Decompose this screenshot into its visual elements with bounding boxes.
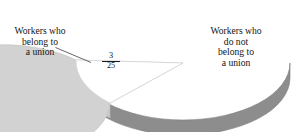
pie-chart-figure: Workers who belong to a union Workers wh…	[0, 0, 299, 132]
fraction-denominator: 25	[100, 62, 122, 70]
label-workers-union: Workers who belong to a union	[4, 26, 76, 58]
label-union-line-3: a union	[4, 47, 76, 58]
label-workers-nonunion: Workers who do not belong to a union	[193, 26, 279, 69]
fraction-numerator: 3	[100, 52, 122, 60]
label-nonunion-line-4: a union	[193, 58, 279, 69]
slice-value-fraction: 3 25	[100, 52, 122, 70]
